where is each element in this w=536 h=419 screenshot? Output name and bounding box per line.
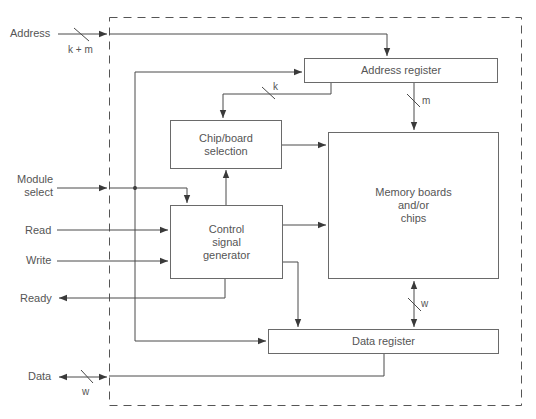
memory-block: Memory boards and/or chips <box>328 132 499 279</box>
address-register-label: Address register <box>361 64 441 77</box>
memory-data-bus-width: w <box>421 297 428 310</box>
module-select-label: Module select <box>17 173 53 199</box>
data-register-block: Data register <box>268 329 499 354</box>
ready-wire <box>59 278 225 298</box>
chip-selection-label: Chip/board selection <box>199 132 253 158</box>
control-generator-label: Control signal generator <box>203 223 250 262</box>
address-input-label: Address <box>10 27 50 40</box>
memory-label: Memory boards and/or chips <box>375 186 451 225</box>
data-label: Data <box>28 370 51 383</box>
write-label: Write <box>26 254 51 267</box>
data-internal-wire <box>109 353 384 376</box>
module-select-to-control <box>109 188 187 203</box>
control-generator-block: Control signal generator <box>170 205 283 279</box>
control-to-data-register <box>282 262 298 327</box>
address-register-block: Address register <box>304 58 498 83</box>
data-register-label: Data register <box>352 335 415 348</box>
ready-label: Ready <box>20 292 52 305</box>
address-internal-wire <box>109 34 387 56</box>
memory-address-bus-width: m <box>422 94 430 107</box>
address-bus-width: k + m <box>68 43 93 56</box>
chip-selection-block: Chip/board selection <box>170 120 282 169</box>
read-label: Read <box>25 224 51 237</box>
data-bus-width: w <box>82 385 89 398</box>
chip-select-bus-width: k <box>273 80 278 93</box>
